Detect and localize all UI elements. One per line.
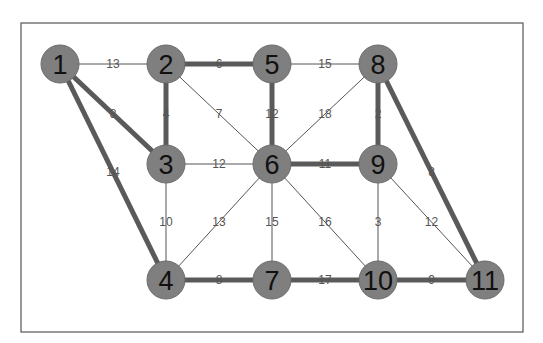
edge-weight-label: 8 <box>216 273 223 287</box>
node-label: 2 <box>158 50 173 80</box>
graph-node-2: 2 <box>147 45 185 83</box>
edge-weight-label: 8 <box>110 107 117 121</box>
edge-weight-label: 12 <box>425 215 439 229</box>
edge-weight-label: 3 <box>375 215 382 229</box>
edge-weight-label: 2 <box>375 107 382 121</box>
edge-weight-label: 13 <box>212 215 226 229</box>
node-label: 5 <box>264 50 279 80</box>
graph-node-7: 7 <box>253 261 291 299</box>
graph-node-4: 4 <box>147 261 185 299</box>
graph-node-1: 1 <box>41 45 79 83</box>
edge-weight-label: 15 <box>265 215 279 229</box>
edge-weight-label: 11 <box>319 157 332 171</box>
edge-weight-label: 18 <box>318 107 332 121</box>
graph-node-5: 5 <box>253 45 291 83</box>
graph-node-10: 10 <box>359 261 397 299</box>
node-label: 6 <box>264 150 279 180</box>
edge-weight-label: 8 <box>428 165 435 179</box>
edge-weight-label: 14 <box>106 165 120 179</box>
node-label: 7 <box>264 266 279 296</box>
edge-weight-label: 16 <box>318 215 332 229</box>
node-label: 3 <box>158 150 173 180</box>
edge-weight-label: 10 <box>159 215 173 229</box>
edge-weight-label: 12 <box>265 107 279 121</box>
edge-weight-label: 6 <box>216 57 223 71</box>
weighted-graph-diagram: 13814647121013815121828111516312179 1234… <box>0 0 543 343</box>
node-label: 10 <box>363 266 393 296</box>
node-label: 9 <box>370 150 385 180</box>
edge-weight-label: 12 <box>212 157 226 171</box>
node-label: 4 <box>158 266 173 296</box>
edge-weight-label: 15 <box>318 57 332 71</box>
node-label: 11 <box>471 266 499 296</box>
edge-weight-label: 7 <box>216 107 223 121</box>
edge-weight-label: 4 <box>163 107 170 121</box>
node-label: 8 <box>370 50 385 80</box>
edge-weight-label: 17 <box>318 273 332 287</box>
edge-weight-label: 13 <box>106 57 120 71</box>
graph-node-3: 3 <box>147 145 185 183</box>
graph-node-6: 6 <box>253 145 291 183</box>
node-label: 1 <box>52 50 67 80</box>
graph-node-9: 9 <box>359 145 397 183</box>
graph-node-11: 11 <box>466 261 504 299</box>
edge-weight-label: 9 <box>428 273 435 287</box>
graph-node-8: 8 <box>359 45 397 83</box>
